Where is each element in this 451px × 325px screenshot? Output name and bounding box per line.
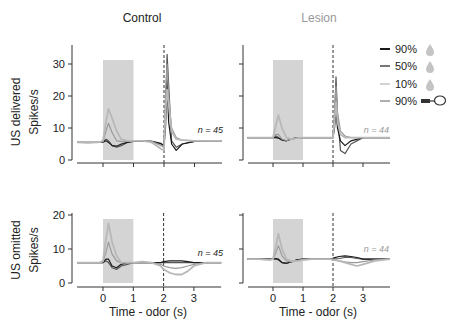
water-drop-icon — [426, 61, 434, 73]
legend-item-50-drop: 50% — [380, 60, 434, 73]
title-lesion: Lesion — [301, 11, 336, 25]
panel-control-delivered: 0102030 — [53, 45, 222, 167]
legend: 90% 50% 10% 90% — [380, 43, 446, 107]
legend-item-10-drop: 10% — [380, 78, 434, 91]
y-tick-label: 20 — [53, 90, 65, 102]
y-tick-label: 0 — [59, 154, 65, 166]
x-tick-label: 0 — [100, 292, 106, 304]
ylabel-top: Spikes/s — [27, 89, 41, 134]
title-control: Control — [123, 11, 162, 25]
series-line — [77, 90, 222, 151]
panel-lesion-delivered — [239, 45, 390, 167]
odor-window-shade — [273, 219, 303, 283]
panel-lesion-omitted: 0123 — [239, 213, 390, 304]
n-label-lesion-top: n = 44 — [364, 125, 389, 135]
panel-control-omitted: 010200123 — [53, 209, 221, 304]
n-label-control-bottom: n = 45 — [198, 248, 224, 258]
xlabel-control: Time - odor (s) — [109, 305, 187, 319]
legend-item-90-omitted: 90% — [380, 95, 446, 107]
figure: Control Lesion US delivered Spikes/s US … — [0, 0, 451, 325]
y-tick-label: 0 — [59, 277, 65, 289]
x-tick-label: 3 — [360, 292, 366, 304]
y-tick-label: 10 — [53, 243, 65, 255]
row-label-us-omitted: US omitted — [9, 220, 23, 279]
xlabel-lesion: Time - odor (s) — [279, 305, 357, 319]
svg-text:90%: 90% — [395, 95, 417, 107]
svg-text:90%: 90% — [395, 43, 417, 55]
x-tick-label: 2 — [330, 292, 336, 304]
y-tick-label: 20 — [53, 209, 65, 221]
n-label-control-top: n = 45 — [198, 125, 224, 135]
odor-window-shade — [273, 60, 303, 160]
x-tick-label: 1 — [130, 292, 136, 304]
y-tick-label: 30 — [53, 58, 65, 70]
svg-text:10%: 10% — [395, 78, 417, 90]
ylabel-bottom: Spikes/s — [27, 227, 41, 272]
n-label-lesion-bottom: n = 44 — [364, 244, 389, 254]
y-tick-label: 10 — [53, 122, 65, 134]
cord-loop-icon — [421, 96, 446, 105]
water-drop-icon — [426, 79, 434, 91]
x-tick-label: 1 — [300, 292, 306, 304]
legend-item-90-drop: 90% — [380, 43, 434, 56]
series-line — [248, 77, 391, 154]
x-tick-label: 2 — [161, 292, 167, 304]
row-label-us-delivered: US delivered — [9, 78, 23, 147]
x-tick-label: 3 — [191, 292, 197, 304]
series-line — [77, 80, 222, 150]
x-tick-label: 0 — [270, 292, 276, 304]
svg-text:50%: 50% — [395, 60, 417, 72]
water-drop-icon — [426, 44, 434, 56]
